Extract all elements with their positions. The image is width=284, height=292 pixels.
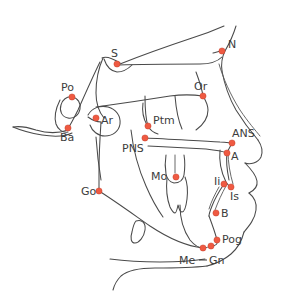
landmark-dot-posterior-nasal-spine[interactable]	[142, 135, 148, 141]
landmark-dot-incisor-inferior[interactable]	[221, 181, 227, 187]
landmark-dot-articulare[interactable]	[93, 115, 99, 121]
landmark-label-gnathion: Gn	[209, 254, 225, 267]
landmark-label-b-point-supramentale: B	[221, 207, 229, 220]
upper-lip-soft-tissue	[245, 163, 257, 193]
landmark-dot-b-point-supramentale[interactable]	[213, 210, 219, 216]
landmark-dot-orbitale[interactable]	[200, 93, 206, 99]
landmark-label-nasion: N	[228, 38, 236, 51]
skull-trace-lines	[13, 26, 262, 290]
ramus-posterior-border	[99, 122, 101, 191]
landmark-label-pogonion: Pog	[222, 233, 242, 246]
landmark-dot-pterygomaxillary-fissure[interactable]	[145, 123, 151, 129]
cranial-vault-outline	[120, 26, 224, 64]
landmark-label-incisor-inferior: Ii	[214, 175, 220, 188]
orbital-floor-outline	[196, 96, 208, 130]
landmark-label-orbitale: Or	[194, 80, 208, 93]
landmark-dot-a-point-subspinale[interactable]	[224, 150, 230, 156]
landmark-label-a-point-subspinale: A	[231, 150, 239, 163]
landmark-dot-gonion[interactable]	[96, 188, 102, 194]
landmark-label-articulare: Ar	[101, 114, 114, 127]
landmark-label-gonion: Go	[81, 185, 97, 198]
hard-palate-lower-contour	[148, 146, 227, 153]
hyoid-bone-outline	[131, 220, 145, 243]
palatal-plane	[145, 138, 232, 143]
landmark-dot-anterior-nasal-spine[interactable]	[229, 140, 235, 146]
landmark-label-menton: Me	[179, 254, 195, 267]
nose-tip-columella	[245, 140, 262, 164]
landmark-dot-menton[interactable]	[200, 245, 206, 251]
landmark-dot-molar[interactable]	[173, 174, 179, 180]
landmark-label-posterior-nasal-spine: PNS	[122, 142, 144, 155]
landmark-label-sella: S	[111, 47, 118, 60]
landmark-dot-porion[interactable]	[69, 94, 75, 100]
landmark-label-pterygomaxillary-fissure: Ptm	[153, 114, 175, 127]
landmark-dot-sella[interactable]	[114, 61, 120, 67]
cephalometric-tracing-figure: SNPoOrArBaPtmPNSANSAMoIiIsGoBPogGnMe	[0, 0, 284, 292]
mandibular-incisor-inner-line	[209, 187, 219, 209]
landmark-label-basion: Ba	[60, 131, 74, 144]
landmark-label-porion: Po	[61, 81, 74, 94]
submental-throat-outline	[113, 266, 207, 290]
cephalometric-tracing-canvas: SNPoOrArBaPtmPNSANSAMoIiIsGoBPogGnMe	[0, 0, 284, 292]
orbital-roof-band	[96, 95, 203, 107]
nasal-bone-inner-line	[219, 64, 260, 136]
external-auditory-meatus	[60, 97, 80, 118]
landmark-label-anterior-nasal-spine: ANS	[232, 127, 255, 140]
landmark-label-molar: Mo	[151, 170, 167, 183]
landmark-dot-nasion[interactable]	[219, 48, 225, 54]
lower-lip-soft-tissue	[244, 193, 256, 232]
landmark-dot-gnathion[interactable]	[208, 243, 214, 249]
landmark-dot-pogonion[interactable]	[214, 237, 220, 243]
landmark-label-incisor-superior: Is	[230, 190, 239, 203]
zygomatic-key-ridge	[175, 96, 182, 129]
